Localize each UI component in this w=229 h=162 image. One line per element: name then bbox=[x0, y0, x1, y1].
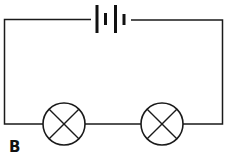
lamp-icon bbox=[43, 103, 85, 145]
lamp-icon bbox=[141, 103, 183, 145]
diagram-label: B bbox=[9, 138, 20, 156]
circuit-diagram bbox=[0, 0, 229, 162]
wires bbox=[5, 20, 223, 125]
battery-icon bbox=[97, 5, 124, 33]
